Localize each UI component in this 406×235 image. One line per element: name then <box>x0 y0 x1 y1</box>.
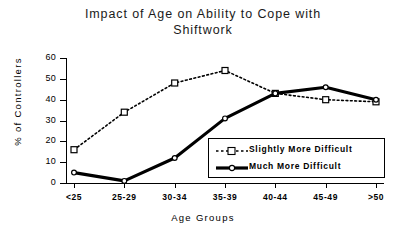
data-point-0-3 <box>222 68 228 74</box>
legend-key-dotted-open-square <box>215 143 249 155</box>
data-point-0-1 <box>121 109 127 115</box>
legend-key-solid-open-circle <box>215 160 249 172</box>
data-point-1-5 <box>323 85 328 90</box>
data-point-1-3 <box>223 116 228 121</box>
legend-item-slightly-more-difficult: Slightly More Difficult <box>215 141 352 157</box>
chart-legend: Slightly More Difficult Much More Diffic… <box>208 138 385 178</box>
data-point-1-1 <box>122 179 127 184</box>
data-point-0-5 <box>323 97 329 103</box>
data-point-1-2 <box>172 156 177 161</box>
data-point-0-0 <box>71 147 77 153</box>
data-point-1-4 <box>273 91 278 96</box>
data-point-1-0 <box>72 170 77 175</box>
legend-label-0: Slightly More Difficult <box>249 144 352 154</box>
data-point-1-6 <box>374 97 379 102</box>
series-plot-area <box>0 0 406 235</box>
data-point-0-2 <box>172 80 178 86</box>
chart-container: Impact of Age on Ability to Cope with Sh… <box>0 0 406 235</box>
legend-item-much-more-difficult: Much More Difficult <box>215 158 341 174</box>
legend-label-1: Much More Difficult <box>249 161 341 171</box>
